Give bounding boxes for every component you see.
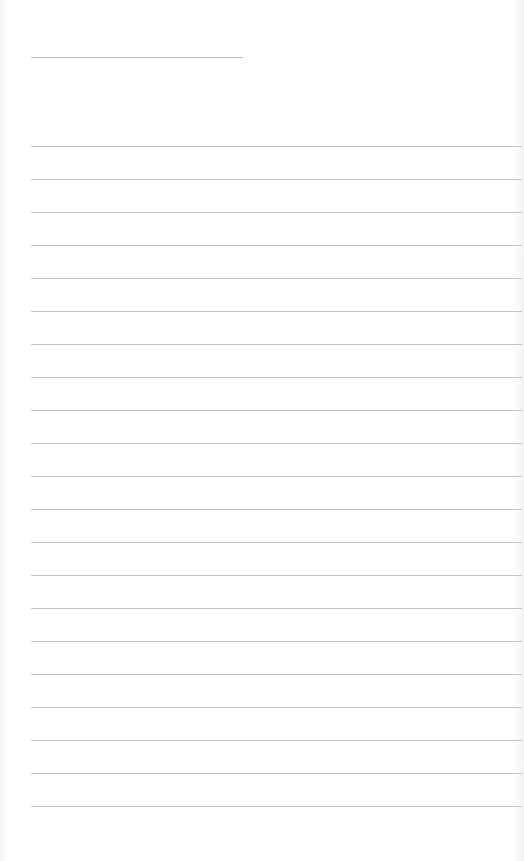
ruled-line: [31, 509, 522, 510]
ruled-line: [31, 179, 522, 180]
ruled-line: [31, 740, 522, 741]
ruled-line: [31, 311, 522, 312]
ruled-line: [31, 773, 522, 774]
ruled-line: [31, 476, 522, 477]
ruled-line: [31, 542, 522, 543]
ruled-line: [31, 146, 522, 147]
ruled-line: [31, 443, 522, 444]
ruled-line: [31, 344, 522, 345]
ruled-line: [31, 707, 522, 708]
ruled-line: [31, 278, 522, 279]
ruled-line: [31, 245, 522, 246]
ruled-line: [31, 575, 522, 576]
ruled-line: [31, 377, 522, 378]
ruled-line: [31, 608, 522, 609]
title-underline: [31, 57, 243, 58]
ruled-line: [31, 212, 522, 213]
lined-paper-page: [0, 0, 524, 861]
ruled-line: [31, 410, 522, 411]
ruled-line: [31, 806, 522, 807]
ruled-line: [31, 674, 522, 675]
ruled-line: [31, 641, 522, 642]
